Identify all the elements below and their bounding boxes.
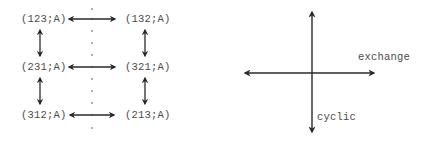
axis-label-cyclic: cyclic <box>317 111 356 123</box>
node-321-A: (321;A) <box>125 61 171 73</box>
node-132-A: (132;A) <box>125 13 171 25</box>
axis-label-exchange: exchange <box>358 51 410 63</box>
node-312-A: (312;A) <box>21 109 67 121</box>
node-213-A: (213;A) <box>125 109 171 121</box>
mirror-dotted-line <box>91 8 93 129</box>
node-123-A: (123;A) <box>21 13 67 25</box>
diagram-canvas: (123;A) (132;A) (231;A) (321;A) (312;A) … <box>0 0 423 144</box>
node-231-A: (231;A) <box>21 61 67 73</box>
